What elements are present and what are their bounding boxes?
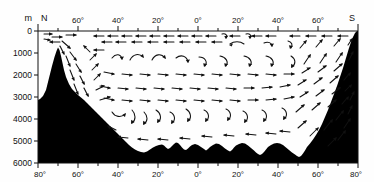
bottom-tick-label-3: 20°	[152, 170, 164, 179]
bottom-tick-label-5: 20°	[232, 170, 244, 179]
y-tick-label-1000: 1000	[13, 48, 32, 58]
y-tick-marks	[34, 31, 38, 163]
seafloor-land-mass	[38, 31, 358, 163]
y-tick-label-3000: 3000	[13, 92, 32, 102]
bottom-tick-label-7: 60°	[312, 170, 324, 179]
top-tick-label-5: 40°	[272, 16, 284, 25]
top-tick-label-0: 60°	[72, 16, 84, 25]
vector-row-deep-southward-1	[104, 63, 343, 77]
bottom-tick-label-8: 80°	[350, 170, 362, 179]
bottom-tick-label-0: 80°	[34, 170, 46, 179]
bottom-tick-label-2: 40°	[112, 170, 124, 179]
vector-row-curls-mid	[112, 51, 354, 68]
top-tick-label-2: 20°	[152, 16, 164, 25]
bottom-tick-label-6: 40°	[272, 170, 284, 179]
top-tick-label-6: 60°	[312, 16, 324, 25]
y-tick-label-6000: 6000	[13, 158, 32, 168]
bottom-tick-label-1: 60°	[72, 170, 84, 179]
vector-row-deep-southward-2	[100, 72, 351, 91]
y-tick-label-5000: 5000	[13, 136, 32, 146]
top-tick-label-4: 20°	[232, 16, 244, 25]
vector-row-surface	[52, 33, 348, 39]
ocean-circulation-figure: m N S 0 1000 2000 3000 4000 5000 6000 60…	[0, 0, 374, 182]
top-tick-label-3: 0°	[194, 16, 202, 25]
vector-row-deep-southward-3	[104, 84, 352, 103]
hemisphere-south-label: S	[349, 13, 355, 23]
seafloor-bathymetry	[38, 31, 358, 163]
y-axis-unit-label: m	[25, 13, 33, 23]
y-tick-label-0: 0	[27, 26, 32, 36]
vector-row-bottom-water	[107, 110, 344, 141]
figure-canvas: m N S 0 1000 2000 3000 4000 5000 6000 60…	[0, 0, 374, 182]
y-tick-label-2000: 2000	[13, 70, 32, 80]
top-tick-label-1: 40°	[112, 16, 124, 25]
hemisphere-north-label: N	[41, 13, 48, 23]
y-tick-label-4000: 4000	[13, 114, 32, 124]
bottom-tick-label-4: 0°	[194, 170, 202, 179]
vector-row-2	[49, 38, 353, 49]
top-tick-marks	[58, 26, 338, 31]
bottom-tick-marks	[38, 163, 358, 168]
